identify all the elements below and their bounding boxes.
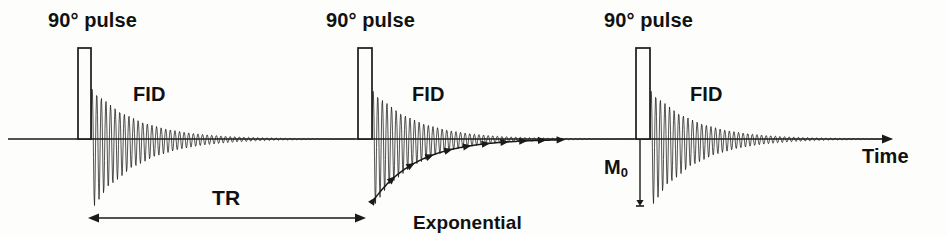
pulse-rect-1: [78, 48, 91, 139]
m0-label: M0: [604, 157, 628, 179]
pulse-label-1: 90° pulse: [48, 10, 137, 32]
pulse-label-3: 90° pulse: [604, 10, 693, 32]
exponential-decay-marker: [557, 136, 566, 143]
fid-label-2: FID: [412, 84, 445, 106]
tr-arrowhead-left: [88, 214, 99, 223]
exponential-decay-marker: [481, 140, 490, 148]
fid-label-3: FID: [690, 84, 723, 106]
pulse-label-2: 90° pulse: [326, 10, 415, 32]
fid-waveform-3: [650, 91, 892, 203]
pulse-rect-3: [636, 48, 650, 139]
m0-label-subscript: 0: [621, 165, 628, 180]
m0-label-base: M: [604, 156, 621, 178]
pulse-rect-2: [358, 48, 372, 139]
exponential-decay-marker: [538, 137, 547, 144]
time-axis-label: Time: [862, 146, 909, 168]
tr-label: TR: [212, 187, 240, 210]
exponential-decay-label: Exponential decay: [413, 172, 522, 236]
tr-arrowhead-right: [355, 214, 366, 223]
pulse-sequence-figure: 90° pulse 90° pulse 90° pulse FID FID FI…: [0, 0, 948, 236]
fid-label-1: FID: [133, 84, 166, 106]
exponential-decay-label-line1: Exponential: [413, 213, 522, 234]
m0-arrowhead-bottom: [636, 200, 643, 206]
